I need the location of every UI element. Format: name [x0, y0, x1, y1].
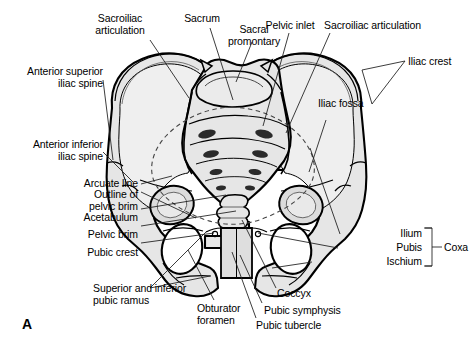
- sacral-promontory: [196, 71, 272, 107]
- label-coccyx: Coccyx: [277, 288, 311, 300]
- label-acetabulum: Acetabulum: [28, 212, 138, 224]
- pelvis-illustration: [0, 0, 473, 352]
- label-superior-and-inferior-pubic-ramus: Superior and inferior pubic ramus: [93, 283, 186, 306]
- label-pelvic-brim: Pelvic brim: [28, 229, 138, 241]
- label-sacrum: Sacrum: [172, 13, 232, 25]
- label-ilium: Ilium: [348, 228, 422, 240]
- label-obturator-foramen: Obturator foramen: [197, 303, 240, 326]
- leader-iliac-crest-wedge: [362, 61, 405, 104]
- label-pubis: Pubis: [348, 242, 422, 254]
- coxa-bracket: [425, 228, 442, 266]
- label-pelvic-inlet: Pelvic inlet: [258, 20, 322, 32]
- label-sacroiliac-articulation-right: Sacroiliac articulation: [324, 20, 421, 32]
- coxa-bracket-ticks: [424, 228, 432, 266]
- right-pubic-tubercle: [255, 231, 260, 236]
- label-ischium: Ischium: [348, 256, 422, 268]
- label-pubic-symphysis: Pubic symphysis: [264, 305, 341, 317]
- label-coxa: Coxa: [444, 242, 468, 254]
- label-pubic-tubercle: Pubic tubercle: [256, 320, 321, 332]
- anatomical-figure-pelvis: Sacroiliac articulation Sacrum Sacral pr…: [0, 0, 473, 352]
- label-outline-of-pelvic-brim: Outline of pelvic brim: [28, 189, 138, 212]
- label-iliac-fossa: Iliac fossa: [318, 98, 364, 110]
- label-pubic-crest: Pubic crest: [28, 247, 138, 259]
- label-sacroiliac-articulation-left: Sacroiliac articulation: [75, 13, 165, 36]
- label-anterior-superior-iliac-spine: Anterior superior iliac spine: [10, 66, 103, 89]
- label-anterior-inferior-iliac-spine: Anterior inferior iliac spine: [10, 139, 103, 162]
- panel-letter: A: [22, 316, 32, 332]
- label-iliac-crest: Iliac crest: [408, 56, 451, 68]
